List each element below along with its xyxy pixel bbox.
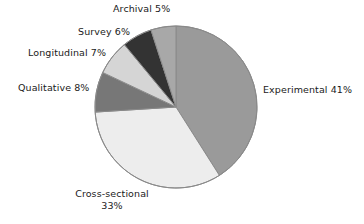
pie-chart-figure: Experimental 41% Cross-sectional33% Qual…: [0, 0, 364, 224]
pie-label-qualitative: Qualitative 8%: [18, 82, 89, 94]
pie-label-archival: Archival 5%: [113, 3, 170, 15]
pie-label-longitudinal: Longitudinal 7%: [28, 47, 106, 59]
pie-label-cross-sectional-line2: 33%: [101, 200, 122, 211]
pie-label-cross-sectional: Cross-sectional33%: [56, 188, 168, 212]
pie-label-cross-sectional-line1: Cross-sectional: [75, 188, 149, 199]
pie-label-experimental: Experimental 41%: [263, 84, 352, 96]
pie-chart-canvas: [0, 0, 364, 224]
pie-label-survey: Survey 6%: [78, 26, 130, 38]
